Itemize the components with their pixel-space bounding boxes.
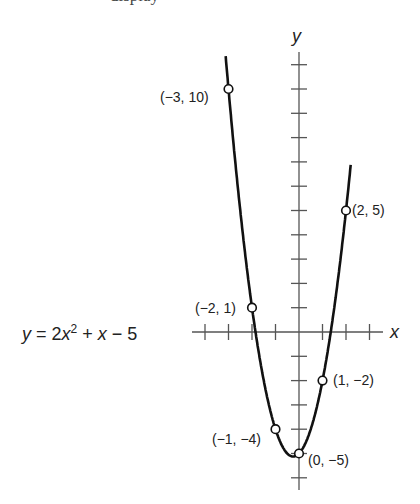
parabola-graph: x y (−3, 10) (−2, 1) (−1, −4) (0, −5) (1… bbox=[0, 0, 420, 504]
point-label-neg2-1: (−2, 1) bbox=[195, 300, 236, 316]
point-label-neg3-10: (−3, 10) bbox=[160, 89, 209, 105]
data-point-marker bbox=[248, 303, 257, 312]
eq-equals: = 2 bbox=[31, 324, 62, 344]
parabola-curve bbox=[226, 56, 351, 456]
plotted-points bbox=[224, 85, 350, 458]
data-point-marker bbox=[318, 376, 327, 385]
data-point-marker bbox=[271, 425, 280, 434]
equation-label: y = 2x2 + x − 5 bbox=[20, 322, 137, 344]
data-point-marker bbox=[224, 85, 233, 94]
point-label-neg1-neg4: (−1, −4) bbox=[212, 431, 261, 447]
point-label-2-5: (2, 5) bbox=[352, 202, 385, 218]
point-label-0-neg5: (0, −5) bbox=[308, 452, 349, 468]
data-point-marker bbox=[342, 206, 351, 215]
data-point-marker bbox=[295, 449, 304, 458]
point-label-1-neg2: (1, −2) bbox=[333, 372, 374, 388]
y-axis-label: y bbox=[290, 26, 302, 46]
eq-tail: − 5 bbox=[107, 324, 138, 344]
x-axis-label: x bbox=[389, 322, 400, 342]
eq-plus: + bbox=[77, 324, 98, 344]
axes bbox=[192, 52, 383, 490]
